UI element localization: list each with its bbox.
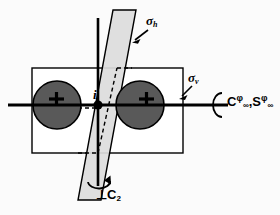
inversion-center-label: i (93, 88, 97, 101)
rotation-s-symbol: S (252, 94, 261, 109)
rotation-c-symbol: C (227, 94, 236, 109)
sigma-h-leader-arrow (132, 30, 148, 44)
perpendicular-c2-subscript: 2 (116, 194, 120, 203)
sigma-v-subscript: v (195, 77, 199, 86)
principal-rotation-axis-label: Cφ∞,Sφ∞ (227, 94, 273, 110)
perpendicular-c2-prefix: ⊥C (96, 187, 116, 202)
sigma-v-label: σv (188, 71, 199, 86)
sigma-v-symbol: σ (188, 70, 195, 85)
symmetry-diagram: σh σv i ⊥C2 Cφ∞,Sφ∞ (0, 0, 280, 215)
rotation-s-infinity-subscript: ∞ (267, 101, 273, 110)
perpendicular-c2-label: ⊥C2 (96, 188, 121, 203)
sigma-h-symbol: σ (146, 13, 153, 28)
sigma-h-subscript: h (153, 20, 157, 29)
sigma-h-label: σh (146, 14, 158, 29)
